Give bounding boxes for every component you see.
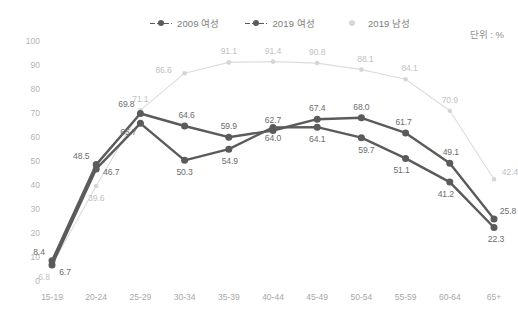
data-point-label: 39.6 [88, 193, 104, 203]
data-point[interactable] [491, 216, 498, 223]
data-point-label: 49.1 [443, 147, 459, 157]
data-point-label: 42.4 [502, 167, 518, 177]
data-point-label: 54.9 [222, 156, 238, 166]
data-point[interactable] [315, 61, 320, 66]
data-point[interactable] [359, 67, 364, 72]
data-point[interactable] [491, 224, 498, 231]
data-point[interactable] [181, 157, 188, 164]
data-point-label: 67.4 [309, 103, 325, 113]
data-point-label: 62.7 [265, 115, 281, 125]
data-point-label: 50.3 [176, 167, 192, 177]
data-point-label: 91.1 [221, 46, 237, 56]
data-point-label: 71.1 [132, 94, 148, 104]
data-point[interactable] [181, 123, 188, 130]
data-point-label: 69.8 [118, 99, 134, 109]
data-point[interactable] [227, 60, 232, 65]
data-point[interactable] [358, 134, 365, 141]
data-point-label: 64.0 [265, 133, 281, 143]
data-point[interactable] [314, 124, 321, 131]
data-point[interactable] [94, 184, 99, 189]
data-point[interactable] [314, 116, 321, 123]
data-point-label: 6.8 [38, 272, 50, 282]
data-point[interactable] [225, 146, 232, 153]
series-line [52, 123, 494, 265]
data-point-label: 91.4 [265, 46, 281, 56]
data-point[interactable] [270, 124, 277, 131]
data-point-label: 86.6 [155, 65, 171, 75]
data-point-label: 68.0 [353, 102, 369, 112]
data-point[interactable] [358, 114, 365, 121]
data-point[interactable] [446, 160, 453, 167]
data-point-label: 65.7 [120, 127, 136, 137]
data-point[interactable] [49, 261, 56, 268]
data-point[interactable] [446, 179, 453, 186]
data-point[interactable] [137, 110, 144, 117]
data-point-label: 22.3 [488, 234, 504, 244]
data-point[interactable] [137, 120, 144, 127]
data-point[interactable] [225, 134, 232, 141]
data-point-label: 51.1 [393, 165, 409, 175]
data-point-label: 25.8 [500, 206, 516, 216]
data-point[interactable] [403, 77, 408, 82]
data-point-label: 64.6 [178, 110, 194, 120]
data-point[interactable] [402, 129, 409, 136]
data-point[interactable] [93, 165, 100, 172]
data-point-label: 70.9 [442, 95, 458, 105]
data-point-label: 41.2 [438, 189, 454, 199]
data-point[interactable] [271, 59, 276, 64]
data-point[interactable] [448, 109, 453, 114]
data-point-label: 59.7 [358, 145, 374, 155]
series-line [52, 62, 494, 265]
data-point[interactable] [402, 155, 409, 162]
data-point[interactable] [492, 177, 497, 182]
series-men-2019 [50, 59, 497, 267]
data-point-label: 59.9 [221, 121, 237, 131]
data-point-label: 84.1 [401, 63, 417, 73]
data-point-label: 61.7 [395, 117, 411, 127]
data-point[interactable] [182, 71, 187, 76]
data-point-label: 88.1 [357, 54, 373, 64]
data-point-label: 46.7 [103, 167, 119, 177]
data-point-label: 64.1 [309, 134, 325, 144]
data-point-label: 90.8 [309, 47, 325, 57]
data-point-label: 6.7 [59, 267, 71, 277]
data-point-label: 48.5 [73, 151, 89, 161]
data-point-label: 8.4 [33, 247, 45, 257]
